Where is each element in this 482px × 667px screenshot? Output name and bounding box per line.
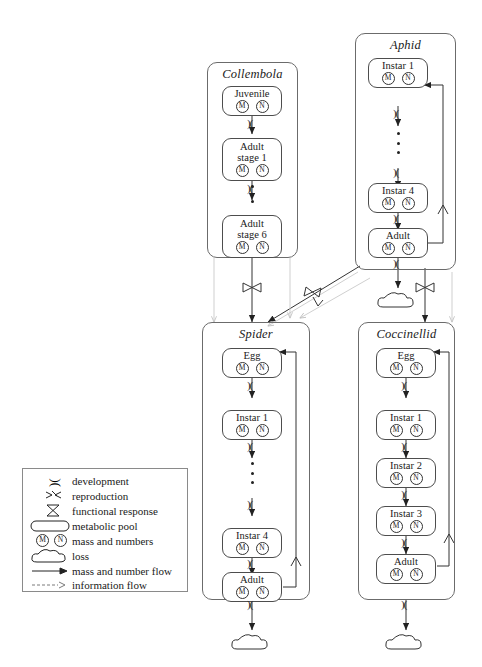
legend-item-metabolic-pool: metabolic pool bbox=[28, 518, 138, 533]
stage-label: Instar 4 bbox=[236, 531, 268, 542]
legend-label: functional response bbox=[72, 505, 158, 517]
development-valve-icon: )( bbox=[393, 212, 398, 224]
reproduction-icon bbox=[28, 488, 72, 503]
svg-text:)(: )( bbox=[46, 478, 61, 487]
legend-label: information flow bbox=[72, 579, 147, 591]
mass-icon: M bbox=[236, 362, 249, 375]
development-valve-icon: )( bbox=[247, 182, 252, 194]
numbers-icon: N bbox=[256, 424, 269, 437]
stage-label: Adult bbox=[386, 231, 410, 242]
stage-label: Adult bbox=[394, 557, 418, 568]
stage-spider-instar-1[interactable]: Instar 1 M N bbox=[222, 410, 282, 440]
numbers-icon: N bbox=[256, 241, 269, 254]
mass-numbers-icon: M N bbox=[382, 72, 415, 85]
legend-label: mass and numbers bbox=[72, 535, 153, 547]
stage-coccinellid-instar-2[interactable]: Instar 2 M N bbox=[376, 458, 436, 488]
mass-icon: M bbox=[382, 197, 395, 210]
legend-label: development bbox=[72, 475, 129, 487]
stage-aphid-instar-1[interactable]: Instar 1 M N bbox=[368, 58, 428, 88]
stage-label: Egg bbox=[244, 351, 261, 362]
stage-collembola-adult-1[interactable]: Adult stage 1 M N bbox=[222, 138, 282, 181]
stage-label: Instar 2 bbox=[390, 461, 422, 472]
mass-icon: M bbox=[382, 72, 395, 85]
numbers-icon: N bbox=[402, 197, 415, 210]
mass-numbers-icon: M N bbox=[382, 242, 415, 255]
legend-item-mass-and-numbers: M N mass and numbers bbox=[28, 533, 153, 548]
stage-coccinellid-adult[interactable]: Adult M N bbox=[376, 554, 436, 584]
stage-coccinellid-instar-1[interactable]: Instar 1 M N bbox=[376, 410, 436, 440]
legend-item-information-flow: information flow bbox=[28, 577, 147, 592]
stage-coccinellid-egg[interactable]: Egg M N bbox=[376, 348, 436, 378]
stage-label: Instar 1 bbox=[236, 413, 268, 424]
information-flow-icon bbox=[28, 577, 72, 592]
numbers-icon: N bbox=[256, 586, 269, 599]
compartment-title-spider: Spider bbox=[203, 327, 309, 342]
stage-spider-egg[interactable]: Egg M N bbox=[222, 348, 282, 378]
mass-numbers-icon: M N bbox=[236, 241, 269, 254]
legend-item-mass-number-flow: mass and number flow bbox=[28, 563, 172, 578]
mass-icon: M bbox=[390, 424, 403, 437]
mass-numbers-icon: M N bbox=[236, 362, 269, 375]
stage-collembola-juvenile[interactable]: Juvenile M N bbox=[222, 86, 282, 116]
stage-collembola-adult-6[interactable]: Adult stage 6 M N bbox=[222, 215, 282, 258]
legend-label: loss bbox=[72, 550, 89, 562]
legend-item-development: )( development bbox=[28, 473, 129, 488]
ellipsis-spider bbox=[250, 462, 254, 484]
mass-numbers-icon: M N bbox=[236, 424, 269, 437]
stage-label: Instar 1 bbox=[382, 61, 414, 72]
mass-numbers-icon: M N bbox=[236, 542, 269, 555]
functional-response-symbols bbox=[243, 283, 434, 297]
numbers-icon: N bbox=[402, 242, 415, 255]
development-valve-icon: )( bbox=[393, 166, 398, 178]
mass-icon: M bbox=[236, 424, 249, 437]
mass-icon: M bbox=[236, 100, 249, 113]
stage-spider-instar-4[interactable]: Instar 4 M N bbox=[222, 528, 282, 558]
mass-numbers-icon: M N bbox=[390, 568, 423, 581]
stage-label: Adult bbox=[240, 575, 264, 586]
stage-label: Instar 1 bbox=[390, 413, 422, 424]
numbers-icon: N bbox=[410, 472, 423, 485]
mass-numbers-icon: M N bbox=[390, 472, 423, 485]
numbers-icon: N bbox=[256, 164, 269, 177]
mass-numbers-icon: M N bbox=[390, 424, 423, 437]
development-valve-icon: )( bbox=[401, 598, 406, 610]
mass-icon: M bbox=[382, 242, 395, 255]
stage-label: Instar 3 bbox=[390, 509, 422, 520]
metabolic-pool-icon bbox=[28, 518, 72, 533]
stage-label: Adult stage 1 bbox=[237, 142, 266, 164]
development-valve-icon: )( bbox=[401, 440, 406, 452]
development-valve-icon: )( bbox=[401, 488, 406, 500]
mass-numbers-icon: M N bbox=[390, 520, 423, 533]
mass-icon: M bbox=[390, 520, 403, 533]
mass-numbers-icon: M N bbox=[28, 533, 72, 548]
legend-item-loss: loss bbox=[28, 548, 89, 563]
compartment-title-collembola: Collembola bbox=[208, 67, 297, 82]
development-valve-icon: )( bbox=[247, 557, 252, 569]
mass-icon: M bbox=[236, 241, 249, 254]
development-valve-icon: )( bbox=[247, 598, 252, 610]
stage-aphid-adult[interactable]: Adult M N bbox=[368, 228, 428, 258]
stage-coccinellid-instar-3[interactable]: Instar 3 M N bbox=[376, 506, 436, 536]
numbers-icon: N bbox=[256, 100, 269, 113]
stage-aphid-instar-4[interactable]: Instar 4 M N bbox=[368, 183, 428, 213]
ellipsis-aphid bbox=[396, 132, 400, 154]
development-valve-icon: )( bbox=[401, 536, 406, 548]
development-valve-icon: )( bbox=[247, 117, 252, 129]
compartment-title-aphid: Aphid bbox=[356, 38, 455, 53]
numbers-icon: N bbox=[256, 362, 269, 375]
numbers-icon: N bbox=[410, 424, 423, 437]
legend-item-functional-response: functional response bbox=[28, 503, 158, 518]
development-valve-icon: )( bbox=[393, 257, 398, 269]
stage-label: Instar 4 bbox=[382, 186, 414, 197]
development-valve-icon: )( bbox=[393, 107, 398, 119]
compartment-title-coccinellid: Coccinellid bbox=[359, 327, 454, 342]
numbers-icon: N bbox=[410, 362, 423, 375]
legend-label: mass and number flow bbox=[72, 565, 172, 577]
numbers-icon: N bbox=[54, 534, 67, 547]
mass-numbers-icon: M N bbox=[382, 197, 415, 210]
stage-label: Egg bbox=[398, 351, 415, 362]
mass-icon: M bbox=[236, 542, 249, 555]
mass-icon: M bbox=[390, 472, 403, 485]
development-valve-icon: )( bbox=[401, 379, 406, 391]
legend-label: metabolic pool bbox=[72, 520, 138, 532]
